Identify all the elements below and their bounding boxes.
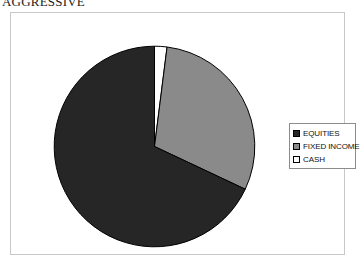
legend-item-equities[interactable]: EQUITIES [293, 127, 353, 139]
legend-item-cash[interactable]: CASH [293, 153, 353, 165]
legend-swatch-icon [293, 130, 300, 137]
legend-swatch-icon [293, 143, 300, 150]
chart-plot-frame: EQUITIES FIXED INCOME CASH [10, 12, 345, 255]
pie-slice-group [54, 46, 255, 247]
legend-item-label: FIXED INCOME [303, 142, 360, 151]
page-title: AGGRESSIVE [2, 0, 85, 8]
legend-item-label: EQUITIES [303, 129, 340, 138]
pie-chart [53, 44, 256, 249]
legend-item-label: CASH [303, 155, 325, 164]
pie-chart-svg [53, 44, 256, 249]
chart-legend: EQUITIES FIXED INCOME CASH [289, 123, 356, 169]
legend-item-fixed-income[interactable]: FIXED INCOME [293, 140, 353, 152]
legend-swatch-icon [293, 156, 300, 163]
